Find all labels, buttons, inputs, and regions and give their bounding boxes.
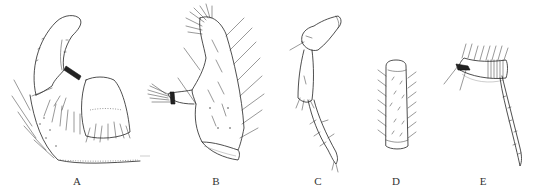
panel-c-drawing [290,16,341,172]
panel-label-d: D [386,175,406,187]
plate-drawings [0,0,534,190]
panel-label-e: E [473,175,493,187]
panel-a-drawing [12,16,140,164]
panel-e-drawing [444,44,522,166]
panel-label-a: A [67,175,87,187]
panel-label-b: B [206,175,226,187]
panel-b-drawing [148,4,264,160]
figure-plate: A B C D E [0,0,534,190]
panel-d-drawing [378,60,416,149]
panel-label-c: C [308,175,328,187]
